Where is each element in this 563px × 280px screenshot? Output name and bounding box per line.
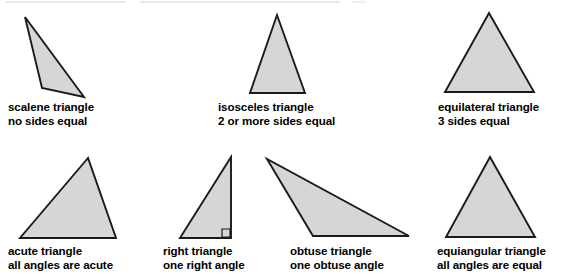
- obtuse-caption-line1: obtuse triangle: [290, 244, 384, 258]
- right-triangle-shape: [180, 157, 231, 238]
- isosceles-caption: isosceles triangle 2 or more sides equal: [218, 100, 335, 127]
- equilateral-caption-line1: equilateral triangle: [438, 100, 539, 114]
- scalene-caption-line1: scalene triangle: [8, 100, 94, 114]
- scalene-triangle-shape: [25, 17, 84, 97]
- isosceles-caption-line2: 2 or more sides equal: [218, 114, 335, 128]
- isosceles-triangle-shape: [250, 15, 305, 93]
- right-caption-line1: right triangle: [163, 244, 245, 258]
- equiangular-triangle-shape: [446, 157, 535, 237]
- equilateral-triangle-shape: [445, 13, 534, 92]
- acute-caption-line1: acute triangle: [8, 244, 113, 258]
- equiangular-caption-line1: equiangular triangle: [437, 244, 546, 258]
- triangle-shapes-canvas: [0, 0, 563, 280]
- equiangular-caption-line2: all angles are equal: [437, 258, 546, 272]
- scalene-caption-line2: no sides equal: [8, 114, 94, 128]
- isosceles-caption-line1: isosceles triangle: [218, 100, 335, 114]
- right-caption-line2: one right angle: [163, 258, 245, 272]
- equiangular-caption: equiangular triangle all angles are equa…: [437, 244, 546, 271]
- equilateral-caption: equilateral triangle 3 sides equal: [438, 100, 539, 127]
- equilateral-caption-line2: 3 sides equal: [438, 114, 539, 128]
- right-caption: right triangle one right angle: [163, 244, 245, 271]
- right-angle-marker-icon: [222, 229, 230, 237]
- obtuse-caption: obtuse triangle one obtuse angle: [290, 244, 384, 271]
- acute-triangle-shape: [20, 158, 116, 238]
- acute-caption: acute triangle all angles are acute: [8, 244, 113, 271]
- obtuse-caption-line2: one obtuse angle: [290, 258, 384, 272]
- scalene-caption: scalene triangle no sides equal: [8, 100, 94, 127]
- acute-caption-line2: all angles are acute: [8, 258, 113, 272]
- triangle-types-figure: scalene triangle no sides equal isoscele…: [0, 0, 563, 280]
- obtuse-triangle-shape: [267, 159, 409, 236]
